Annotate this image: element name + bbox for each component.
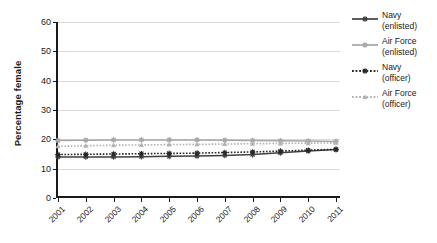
- legend-item-1[interactable]: Air Force (enlisted): [352, 36, 437, 57]
- legend-label: Air Force (enlisted): [382, 36, 417, 57]
- chart-legend: Navy (enlisted)Air Force (enlisted)Navy …: [352, 10, 437, 114]
- data-point-marker: [139, 151, 145, 157]
- plot-area: 0102030405060 20012002200320042005200620…: [56, 22, 340, 198]
- legend-label: Air Force (officer): [382, 88, 416, 109]
- legend-item-2[interactable]: Navy (officer): [352, 62, 437, 83]
- y-tick-label: 20: [41, 134, 51, 144]
- data-point-marker: [194, 150, 200, 156]
- legend-item-3[interactable]: Air Force (officer): [352, 88, 437, 109]
- data-point-marker: [250, 149, 256, 155]
- data-point-marker: [222, 150, 228, 156]
- x-tick-label: 2003: [99, 204, 123, 228]
- y-tick-label: 60: [41, 17, 51, 27]
- y-tick-label: 0: [46, 193, 51, 203]
- data-point-marker: [166, 151, 172, 157]
- x-tick-label: 2001: [43, 204, 67, 228]
- data-point-marker: [139, 137, 145, 143]
- x-tick-mark: [253, 198, 254, 202]
- legend-swatch-icon: [352, 89, 378, 101]
- x-tick-mark: [114, 198, 115, 202]
- legend-item-0[interactable]: Navy (enlisted): [352, 10, 437, 31]
- data-point-marker: [362, 42, 368, 48]
- x-tick-label: 2011: [321, 204, 345, 228]
- data-point-marker: [83, 137, 89, 143]
- x-tick-mark: [280, 198, 281, 202]
- data-point-marker: [83, 151, 89, 157]
- data-point-marker: [362, 16, 368, 22]
- y-axis-title: Percentage female: [12, 29, 23, 179]
- x-tick-label: 2005: [154, 204, 178, 228]
- data-point-marker: [55, 152, 61, 158]
- data-point-marker: [278, 148, 284, 154]
- data-point-marker: [111, 143, 116, 148]
- y-tick-mark: [53, 198, 56, 199]
- y-tick-label: 10: [41, 164, 51, 174]
- x-tick-mark: [308, 198, 309, 202]
- x-tick-label: 2002: [71, 204, 95, 228]
- x-tick-mark: [197, 198, 198, 202]
- legend-swatch-icon: [352, 63, 378, 75]
- data-point-marker: [166, 137, 172, 143]
- x-tick-label: 2006: [182, 204, 206, 228]
- x-tick-mark: [225, 198, 226, 202]
- data-point-marker: [305, 147, 311, 153]
- x-tick-label: 2009: [265, 204, 289, 228]
- data-point-marker: [55, 144, 60, 149]
- data-point-marker: [333, 147, 339, 153]
- x-tick-mark: [141, 198, 142, 202]
- legend-label: Navy (officer): [382, 62, 411, 83]
- x-tick-label: 2004: [126, 204, 150, 228]
- y-tick-label: 50: [41, 46, 51, 56]
- x-tick-mark: [58, 198, 59, 202]
- data-point-marker: [55, 138, 61, 144]
- x-tick-mark: [336, 198, 337, 202]
- chart-container: Percentage female 0102030405060 20012002…: [0, 0, 437, 243]
- legend-swatch-icon: [352, 11, 378, 23]
- y-tick-label: 30: [41, 105, 51, 115]
- x-tick-label: 2008: [238, 204, 262, 228]
- x-tick-label: 2007: [210, 204, 234, 228]
- data-point-marker: [111, 137, 117, 143]
- legend-swatch-icon: [352, 37, 378, 49]
- legend-label: Navy (enlisted): [382, 10, 417, 31]
- x-tick-label: 2010: [293, 204, 317, 228]
- x-tick-mark: [169, 198, 170, 202]
- x-tick-mark: [86, 198, 87, 202]
- data-point-marker: [362, 68, 368, 74]
- y-tick-label: 40: [41, 76, 51, 86]
- series-layer: [56, 22, 340, 198]
- data-point-marker: [111, 151, 117, 157]
